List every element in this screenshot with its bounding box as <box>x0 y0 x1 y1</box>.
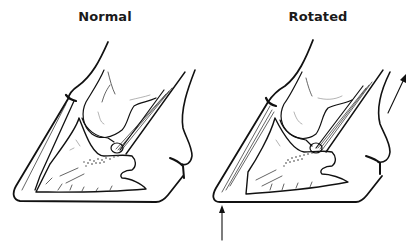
coffin-bone-stipple <box>283 151 316 166</box>
hoof-diagram <box>0 0 417 246</box>
up-right-arrow-heel-icon <box>388 74 406 113</box>
normal-hoof-illustration <box>14 42 195 202</box>
heel-bulb-outline <box>378 72 390 162</box>
heel-crease <box>366 156 380 174</box>
heel-bulb-outline <box>182 70 195 165</box>
outer-hoof-wall <box>213 40 382 202</box>
flexor-tendon-back <box>326 70 383 152</box>
coffin-bone-stipple <box>83 155 118 166</box>
coffin-joint <box>280 120 312 146</box>
cropped-caption-fragment <box>0 240 417 246</box>
flexor-tendon-front <box>120 90 164 150</box>
up-arrow-toe-icon <box>219 205 225 240</box>
flexor-tendon-back <box>126 72 185 154</box>
rotated-hoof-illustration <box>213 40 406 240</box>
heel-crease <box>170 158 184 178</box>
coffin-bone <box>36 118 146 192</box>
short-pastern-bone <box>281 72 352 139</box>
